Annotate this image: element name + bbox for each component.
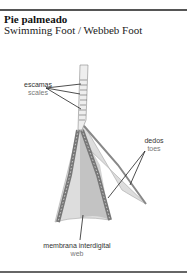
label-toes-es: dedos (144, 137, 163, 144)
label-toes: dedos toes (140, 137, 168, 153)
label-web-en: web (22, 250, 132, 258)
label-web-es: membrana interdigital (43, 242, 110, 249)
label-toes-en: toes (140, 145, 168, 153)
label-scales-en: scales (20, 89, 56, 97)
bottom-rule (0, 271, 187, 273)
label-scales: escamas scales (20, 81, 56, 97)
label-web: membrana interdigital web (22, 242, 132, 258)
label-scales-es: escamas (24, 81, 52, 88)
